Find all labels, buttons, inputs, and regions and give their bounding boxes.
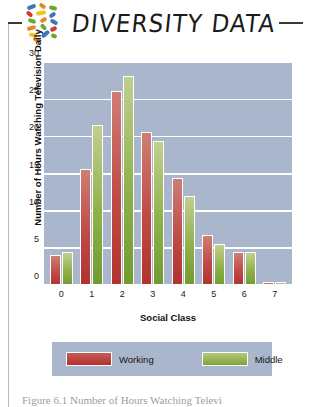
- x-tick-label: 4: [171, 289, 195, 299]
- chart-legend: Working Middle: [52, 342, 272, 376]
- x-tick-label: 7: [263, 289, 287, 299]
- bar-group: [233, 63, 256, 286]
- bar-middle-2: [123, 76, 134, 286]
- y-tick-label: 15: [29, 160, 39, 170]
- y-tick-label: 30: [29, 48, 39, 58]
- bar-group: [202, 63, 225, 286]
- legend-swatch-working: [66, 352, 112, 366]
- figure-caption: Figure 6.1 Number of Hours Watching Tele…: [22, 393, 297, 407]
- x-tick-label: 0: [49, 289, 73, 299]
- bar-group: [263, 63, 286, 286]
- bar-middle-0: [62, 252, 73, 286]
- legend-label-middle: Middle: [255, 354, 283, 365]
- x-tick-label: 6: [232, 289, 256, 299]
- legend-swatch-middle: [202, 352, 248, 366]
- x-tick-label: 3: [141, 289, 165, 299]
- bar-group: [141, 63, 164, 286]
- bar-working-1: [80, 169, 91, 286]
- page-header: DIVERSITY DATA: [0, 0, 310, 48]
- mosaic-chips-icon: [23, 2, 63, 42]
- header-rule-left-icon: [8, 22, 22, 24]
- chart-figure: Number of Hours Watching Television Dail…: [0, 50, 310, 407]
- bar-middle-4: [184, 196, 195, 286]
- legend-item-working: Working: [66, 352, 154, 366]
- axis-baseline: [44, 284, 292, 286]
- y-tick-label: 20: [29, 122, 39, 132]
- y-tick-label: 0: [34, 271, 39, 281]
- bar-working-0: [50, 255, 61, 286]
- x-axis-ticks: 01234567: [44, 289, 292, 299]
- legend-item-middle: Middle: [202, 352, 283, 366]
- bar-working-3: [141, 132, 152, 286]
- x-tick-label: 1: [80, 289, 104, 299]
- bar-group: [80, 63, 103, 286]
- page-title: DIVERSITY DATA: [70, 5, 279, 42]
- bar-working-2: [111, 91, 122, 286]
- bar-middle-3: [153, 141, 164, 286]
- plot-wrapper: 051015202530: [44, 63, 292, 286]
- bar-working-6: [233, 252, 244, 286]
- y-tick-label: 10: [29, 197, 39, 207]
- bar-group: [111, 63, 134, 286]
- bar-working-4: [172, 178, 183, 286]
- bar-group: [172, 63, 195, 286]
- plot-area: [44, 63, 292, 286]
- bar-middle-1: [92, 125, 103, 286]
- x-tick-label: 2: [110, 289, 134, 299]
- x-axis-title: Social Class: [44, 312, 292, 323]
- bars-layer: [44, 63, 292, 286]
- y-tick-label: 25: [29, 85, 39, 95]
- header-rule-right-icon: [279, 22, 303, 24]
- legend-label-working: Working: [119, 354, 154, 365]
- x-tick-label: 5: [202, 289, 226, 299]
- bar-group: [50, 63, 73, 286]
- bar-middle-6: [245, 252, 256, 286]
- bar-working-5: [202, 235, 213, 286]
- bar-middle-5: [214, 244, 225, 286]
- y-tick-label: 5: [34, 234, 39, 244]
